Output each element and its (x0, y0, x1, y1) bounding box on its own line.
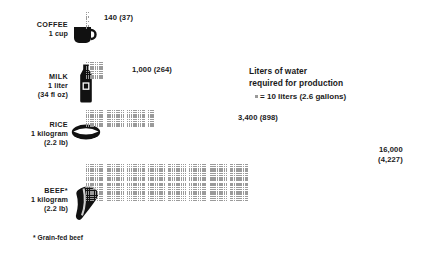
dot-grid-line (86, 164, 248, 181)
callout-beef-gallons: (4,227) (378, 155, 403, 165)
dot-grid-rice (86, 110, 154, 127)
dot-column (88, 12, 89, 29)
legend: Liters of water required for production … (249, 66, 346, 102)
dot-block (86, 62, 103, 79)
dot-block (210, 164, 227, 181)
row-coffee: COFFEE 1 cup (0, 12, 434, 56)
dot-block (86, 110, 103, 127)
dot (88, 16, 89, 17)
row-beef: BEEF* 1 kilogram (2.2 lb) (0, 164, 434, 244)
dot-block (148, 110, 155, 127)
dot-block (189, 164, 206, 181)
dot-column (123, 110, 124, 127)
item-qty2-beef: (2.2 lb) (0, 204, 68, 213)
row-milk: MILK 1 liter (34 fl oz) (0, 62, 434, 108)
legend-title-line1: Liters of water (249, 66, 346, 78)
dot (226, 180, 227, 181)
dot-column (143, 110, 144, 127)
callout-beef: 16,000 (4,227) (378, 145, 403, 166)
dot (123, 180, 124, 181)
dot-block (230, 164, 247, 181)
water-footprint-infographic: COFFEE 1 cup 140 (37) MILK 1 liter (34 f… (0, 0, 434, 258)
dot-grid-coffee (86, 12, 89, 29)
dot-column (164, 164, 165, 181)
callout-rice: 3,400 (898) (238, 113, 278, 122)
dot-block (148, 183, 165, 200)
dot-column (143, 183, 144, 200)
item-name-coffee: COFFEE (0, 20, 68, 29)
dot (226, 200, 227, 201)
label-rice: RICE 1 kilogram (2.2 lb) (0, 120, 68, 148)
dot (185, 180, 186, 181)
dot-block (86, 183, 103, 200)
legend-title-line2: required for production (249, 78, 346, 90)
dot (102, 180, 103, 181)
dot-column (185, 164, 186, 181)
dot (143, 126, 144, 127)
dot-grid-beef (86, 164, 248, 201)
dot-column (153, 110, 154, 127)
dot-block (127, 183, 144, 200)
dot-block (189, 183, 206, 200)
dot (102, 126, 103, 127)
dot-grid-milk (86, 62, 103, 79)
legend-key-text: = 10 liters (2.6 gallons) (260, 91, 346, 102)
dot (164, 180, 165, 181)
item-qty-milk: 1 liter (0, 81, 68, 90)
dot-block (127, 110, 144, 127)
dot (88, 12, 89, 13)
dot (185, 200, 186, 201)
dot (246, 200, 247, 201)
dot-block (107, 164, 124, 181)
dot-block (210, 183, 227, 200)
label-beef: BEEF* 1 kilogram (2.2 lb) (0, 186, 68, 214)
item-qty-coffee: 1 cup (0, 29, 68, 38)
dot (102, 200, 103, 201)
legend-key: = 10 liters (2.6 gallons) (249, 91, 346, 102)
dot-column (246, 183, 247, 200)
dot-block (86, 12, 89, 29)
dot-column (164, 183, 165, 200)
callout-milk: 1,000 (264) (132, 65, 172, 74)
dot-column (205, 183, 206, 200)
callout-coffee: 140 (37) (104, 13, 133, 22)
item-name-beef: BEEF* (0, 186, 68, 195)
dot-column (205, 164, 206, 181)
dot (205, 180, 206, 181)
dot-grid-line (86, 62, 103, 79)
item-name-milk: MILK (0, 72, 68, 81)
item-qty-beef: 1 kilogram (0, 195, 68, 204)
dot-column (102, 164, 103, 181)
row-rice: RICE 1 kilogram (2.2 lb) (0, 110, 434, 156)
dot-grid-line (86, 12, 89, 29)
dot (143, 180, 144, 181)
dot-column (246, 164, 247, 181)
callout-beef-liters: 16,000 (378, 145, 403, 155)
dot (164, 200, 165, 201)
dot-block (168, 183, 185, 200)
item-qty2-rice: (2.2 lb) (0, 138, 68, 147)
dot (88, 21, 89, 22)
dot-grid-line (86, 183, 248, 200)
dot-block (107, 183, 124, 200)
dot (205, 200, 206, 201)
dot (143, 200, 144, 201)
legend-dot-swatch-icon (255, 95, 258, 98)
dot-column (102, 62, 103, 79)
dot-block (148, 164, 165, 181)
dot (102, 78, 103, 79)
dot-column (102, 183, 103, 200)
dot-column (226, 164, 227, 181)
dot (88, 25, 89, 26)
dot-column (123, 164, 124, 181)
dot-column (143, 164, 144, 181)
item-qty-rice: 1 kilogram (0, 129, 68, 138)
dot (246, 180, 247, 181)
dot-block (107, 110, 124, 127)
item-qty2-milk: (34 fl oz) (0, 90, 68, 99)
footnote: * Grain-fed beef (0, 234, 83, 241)
dot-column (123, 183, 124, 200)
dot-block (127, 164, 144, 181)
dot (123, 126, 124, 127)
dot-block (86, 164, 103, 181)
